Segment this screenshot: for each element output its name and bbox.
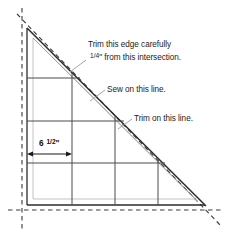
annotation-trim-edge-line2: 1/4" from this intersection. [90,51,181,63]
annotation-trim-line: Trim on this line. [134,114,193,125]
dimension-arrow [27,151,72,156]
diagram-canvas [0,0,231,237]
dimension-whole: 6 [39,139,44,148]
quilting-diagram: Trim this edge carefully 1/4" from this … [0,0,231,237]
dimension-label: 6 1/2" [39,137,59,149]
annotation-trim-edge-line1: Trim this edge carefully [88,40,171,49]
annotation-trim-edge: Trim this edge carefully 1/4" from this … [88,40,181,63]
dimension-unit: " [56,139,60,148]
annotation-trim-edge-line2-rest: " from this intersection. [99,52,181,61]
fraction-quarter: 1/4 [90,52,99,59]
annotation-sew-line: Sew on this line. [107,85,166,96]
dimension-fraction: 1/2 [46,138,55,145]
leader-line-trim-edge [70,60,86,72]
